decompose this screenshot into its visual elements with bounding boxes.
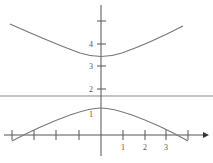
x-tick-label-3: 3 xyxy=(164,143,168,152)
y-tick-label-4: 4 xyxy=(89,40,93,49)
x-axis-arrow-icon xyxy=(203,132,209,138)
upper-curve xyxy=(10,24,183,57)
chart-canvas: 4 3 2 1 1 2 3 xyxy=(0,0,213,163)
lower-curve xyxy=(12,108,188,141)
x-tick-label-1: 1 xyxy=(121,143,125,152)
y-tick-label-3: 3 xyxy=(89,62,93,71)
y-tick-label-1: 1 xyxy=(89,110,93,119)
y-tick-label-2: 2 xyxy=(89,85,93,94)
x-tick-label-2: 2 xyxy=(143,143,147,152)
